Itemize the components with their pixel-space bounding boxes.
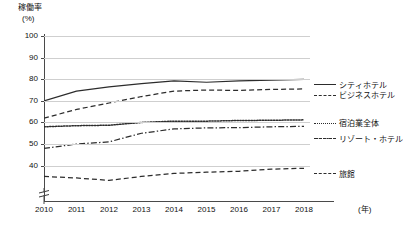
- legend-label: ビジネスホテル: [339, 91, 395, 100]
- x-axis-unit: (年): [358, 205, 371, 214]
- y-tick-90: [41, 58, 44, 59]
- legend-item-3[interactable]: リゾート・ホテル: [314, 129, 403, 147]
- y-tick-label-100: 100: [12, 32, 38, 40]
- legend-line-swatch-icon: [314, 135, 336, 143]
- gridline-60: [44, 122, 310, 123]
- y-axis-unit: (%): [22, 13, 34, 24]
- y-tick-70: [41, 101, 44, 102]
- gridline-70: [44, 101, 310, 102]
- x-tick-label-2017: 2017: [257, 205, 287, 214]
- legend-label: 宿泊業全体: [339, 119, 379, 128]
- y-tick-60: [41, 122, 44, 123]
- y-tick-label-80: 80: [12, 75, 38, 83]
- legend-label: リゾート・ホテル: [339, 135, 403, 144]
- series-line-4: [44, 168, 304, 180]
- plot-area: [44, 36, 310, 197]
- y-tick-80: [41, 79, 44, 80]
- y-tick-label-70: 70: [12, 97, 38, 105]
- y-tick-label-50: 50: [12, 140, 38, 148]
- x-tick-label-2011: 2011: [62, 205, 92, 214]
- gridline-100: [44, 36, 310, 37]
- legend-line-swatch-icon: [314, 120, 336, 128]
- x-tick-label-2016: 2016: [224, 205, 254, 214]
- series-line-3: [44, 126, 304, 148]
- gridline-50: [44, 144, 310, 145]
- legend-line-swatch-icon: [314, 92, 336, 100]
- y-tick-40: [41, 166, 44, 167]
- gridline-80: [44, 79, 310, 80]
- y-tick-label-40: 40: [12, 162, 38, 170]
- y-tick-50: [41, 144, 44, 145]
- legend-item-1[interactable]: ビジネスホテル: [314, 86, 395, 104]
- y-axis-title: 稼働率: [18, 2, 42, 13]
- series-line-0: [44, 79, 304, 100]
- x-tick-label-2014: 2014: [159, 205, 189, 214]
- x-tick-label-2012: 2012: [94, 205, 124, 214]
- y-tick-label-60: 60: [12, 118, 38, 126]
- x-axis-line: [44, 201, 334, 202]
- y-tick-label-90: 90: [12, 54, 38, 62]
- legend-item-4[interactable]: 旅館: [314, 164, 355, 182]
- series-lines: [44, 36, 310, 197]
- x-tick-label-2015: 2015: [192, 205, 222, 214]
- x-tick-label-2013: 2013: [127, 205, 157, 214]
- y-tick-100: [41, 36, 44, 37]
- gridline-90: [44, 58, 310, 59]
- legend-label: 旅館: [339, 170, 355, 179]
- x-tick-label-2018: 2018: [289, 205, 319, 214]
- gridline-40: [44, 166, 310, 167]
- legend-line-swatch-icon: [314, 170, 336, 178]
- series-line-1: [44, 89, 304, 118]
- x-tick-label-2010: 2010: [29, 205, 59, 214]
